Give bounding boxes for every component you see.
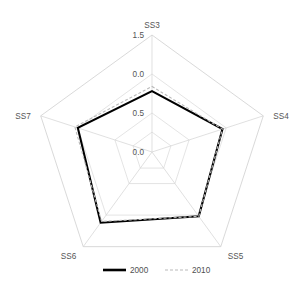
radial-tick-label-0: 1.5 (133, 31, 145, 40)
radar-chart-svg: SS3SS4SS5SS6SS7 1.50.00.50.0 2000 2010 (0, 0, 300, 291)
series-group (75, 86, 223, 222)
axis-label-ss6: SS6 (61, 252, 77, 261)
chart-legend: 2000 2010 (103, 266, 211, 275)
axis-label-ss7: SS7 (15, 112, 31, 121)
axis-label-ss3: SS3 (144, 21, 160, 30)
radial-tick-label-2: 0.5 (133, 109, 145, 118)
series-polygon-2010 (75, 86, 223, 221)
series-polygon-2000 (78, 91, 223, 223)
legend-label-2000: 2000 (130, 266, 149, 275)
axis-spoke-ss7 (41, 116, 152, 152)
radial-tick-label-1: 0.0 (133, 70, 145, 79)
axis-label-ss5: SS5 (228, 252, 244, 261)
axis-spoke-ss5 (152, 152, 221, 247)
legend-label-2010: 2010 (192, 266, 211, 275)
axis-spoke-ss6 (83, 152, 152, 247)
axis-label-ss4: SS4 (273, 112, 289, 121)
tick-labels-group: 1.50.00.50.0 (133, 31, 145, 157)
radial-tick-label-3: 0.0 (133, 148, 145, 157)
radar-chart-container: SS3SS4SS5SS6SS7 1.50.00.50.0 2000 2010 (0, 0, 300, 291)
